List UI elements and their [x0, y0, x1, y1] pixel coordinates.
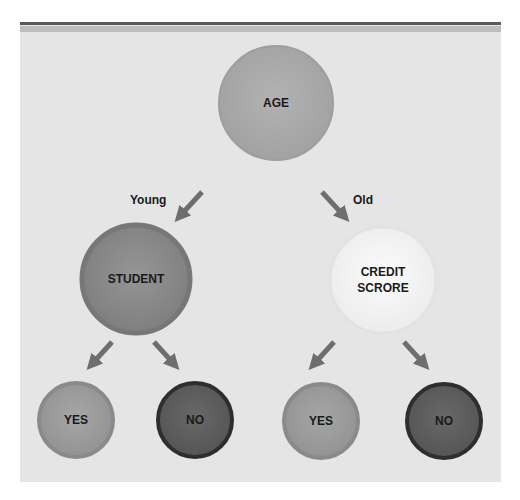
leaf-label-credit-yes: YES [309, 413, 333, 429]
leaf-label-credit-no: NO [435, 413, 453, 429]
credit-score-label: CREDIT SCRORE [357, 264, 408, 296]
arrow-credit-yes [314, 342, 334, 364]
arrow-credit-no [404, 342, 424, 364]
edge-label-old: Old [353, 193, 373, 207]
leaf-label-student-yes: YES [64, 412, 88, 428]
root-label: AGE [263, 95, 289, 111]
student-label: STUDENT [108, 271, 165, 287]
leaf-label-student-no: NO [186, 412, 204, 428]
arrow-young [180, 192, 202, 216]
arrow-student-no [154, 342, 174, 364]
edge-label-young: Young [130, 193, 166, 207]
arrow-old [322, 192, 344, 216]
arrow-student-yes [92, 342, 112, 364]
